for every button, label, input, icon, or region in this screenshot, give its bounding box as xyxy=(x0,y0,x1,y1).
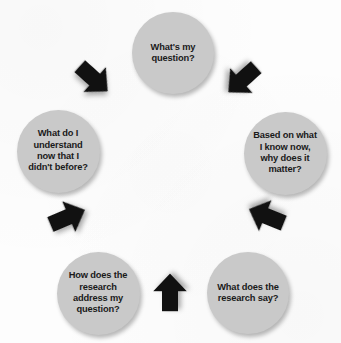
cycle-node-relevance[interactable]: How does the research address my questio… xyxy=(57,252,140,335)
cycle-node-relevance-label: How does the research address my questio… xyxy=(66,270,131,316)
arrow-icon-significance-to-findings xyxy=(240,190,292,242)
cycle-node-findings-label: What does the research say? xyxy=(214,282,282,305)
arrow-icon-relevance-to-understanding xyxy=(42,191,94,243)
research-cycle-diagram: What's my question? Based on what I know… xyxy=(0,0,341,343)
cycle-node-understanding-label: What do I understand now that I didn't b… xyxy=(25,128,91,174)
cycle-node-question[interactable]: What's my question? xyxy=(132,12,214,94)
cycle-node-significance[interactable]: Based on what I know now, why does it ma… xyxy=(244,112,327,195)
cycle-node-question-label: What's my question? xyxy=(148,42,199,65)
cycle-node-understanding[interactable]: What do I understand now that I didn't b… xyxy=(17,110,100,193)
arrow-icon-question-to-significance xyxy=(214,52,270,108)
arrow-icon-findings-to-relevance xyxy=(150,272,190,312)
cycle-node-findings[interactable]: What does the research say? xyxy=(207,252,289,334)
arrow-icon-understanding-to-question xyxy=(66,51,122,107)
cycle-node-significance-label: Based on what I know now, why does it ma… xyxy=(250,130,320,176)
